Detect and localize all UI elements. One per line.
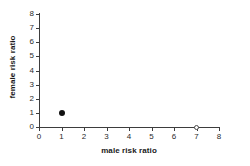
x-tick [62,128,63,131]
x-tick-label: 5 [142,132,162,141]
x-tick-label: 7 [187,132,207,141]
x-tick [152,128,153,131]
x-axis-title: male risk ratio [39,146,219,155]
x-tick-label: 0 [29,132,49,141]
x-tick-label: 6 [164,132,184,141]
x-tick [129,128,130,131]
data-point [194,125,199,130]
y-tick-label: 8 [14,8,34,19]
x-tick-label: 3 [97,132,117,141]
x-tick-label: 2 [74,132,94,141]
x-tick-label: 8 [209,132,229,141]
y-tick-label: 7 [14,22,34,33]
x-tick-label: 4 [119,132,139,141]
y-tick-label: 2 [14,93,34,104]
plot-area [39,14,219,127]
x-tick [174,128,175,131]
y-tick-label: 4 [14,65,34,76]
data-point [59,110,65,116]
x-tick [84,128,85,131]
y-tick-label: 6 [14,36,34,47]
x-tick [39,128,40,131]
x-tick [219,128,220,131]
x-tick-label: 1 [52,132,72,141]
x-tick [107,128,108,131]
y-tick-label: 3 [14,79,34,90]
y-tick-label: 5 [14,50,34,61]
y-tick [36,127,39,128]
scatter-chart: female risk ratio 012345678 012345678 ma… [0,0,250,166]
y-tick-label: 1 [14,107,34,118]
y-tick-label: 0 [14,121,34,132]
